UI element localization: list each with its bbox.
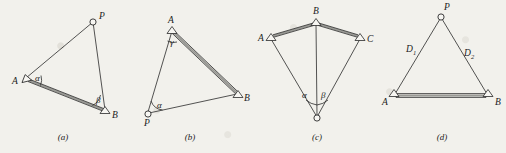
vertex-label-c-A: A [257,33,264,43]
triangulation-figure: A B P α β (a) A B P γ α (b) [0,0,506,153]
angle-label-c-alpha: α [302,90,307,100]
baseline-c-ba [273,23,314,38]
vertex-label-a-A: A [11,76,18,86]
vertex-label-b-A: A [167,15,174,25]
angle-label-b-alpha: α [157,100,162,110]
station-marker-b-A [167,27,177,34]
vertex-label-d-P: P [443,2,450,12]
baseline-d-ab [396,94,486,98]
angle-label-b-gamma: γ [170,37,174,47]
panel-caption-b: (b) [185,132,196,142]
panel-b: A B P γ α (b) [143,15,250,142]
vertex-label-d-A: A [381,97,388,107]
vertex-label-c-B: B [313,6,319,16]
panel-caption-c: (c) [312,132,322,142]
vertex-label-a-B: B [112,110,118,120]
vertex-label-a-P: P [98,11,105,21]
angle-label-a-beta: β [95,95,101,105]
baseline-c-bc [318,23,358,38]
baseline-b-ab [172,31,238,94]
panel-caption-d: (d) [437,132,448,142]
distance-label-d2: D 2 [463,48,475,60]
station-marker-c-B [311,19,321,26]
distance-label-d1: D 1 [405,44,416,56]
panel-caption-a: (a) [58,132,69,142]
distance-label-d2-text: D [463,48,471,58]
vertex-label-b-P: P [143,118,150,128]
point-marker-a-P [90,19,96,25]
vertex-label-c-C: C [367,34,374,44]
sight-line-a-ap [26,22,93,78]
distance-label-d1-text: D [405,44,413,54]
vertex-label-d-B: B [495,97,501,107]
angle-label-a-alpha: α [35,73,40,83]
panel-c: A B C α β (c) [257,6,374,142]
panel-d: A B P D 1 D 2 (d) [381,2,501,142]
point-marker-c-P [314,115,320,121]
vertex-label-b-B: B [244,93,250,103]
distance-label-d1-subscript: 1 [413,49,416,56]
sight-line-c-pc [317,39,360,117]
sight-line-d-ap [395,19,440,94]
baseline-a-ab [28,79,104,112]
point-marker-b-P [145,111,151,117]
panel-a: A B P α β (a) [11,11,118,142]
point-marker-d-P [438,14,444,20]
sight-line-c-pb [316,24,317,116]
distance-label-d2-subscript: 2 [471,53,475,60]
angle-label-c-beta: β [320,90,326,100]
sight-line-c-pa [271,39,317,117]
